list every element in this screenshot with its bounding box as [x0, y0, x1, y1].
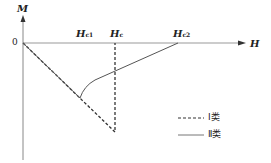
chart-svg — [0, 0, 271, 163]
legend-label-type1: Ⅰ类 — [208, 113, 220, 122]
x-axis-arrow-icon — [238, 41, 246, 46]
tick-hc: Hc — [110, 29, 123, 39]
tick-hc2: Hc2 — [173, 29, 190, 39]
y-axis-label: M — [17, 4, 28, 14]
tick-hc1-sub: c1 — [85, 31, 93, 38]
tick-hc-sub: c — [119, 31, 123, 38]
y-axis-arrow-icon — [21, 15, 26, 22]
tick-hc2-sub: c2 — [182, 31, 190, 38]
tick-hc1: Hc1 — [76, 29, 93, 39]
legend-label-type2: Ⅱ类 — [208, 130, 221, 139]
origin-label: 0 — [12, 38, 18, 47]
x-axis-label: H — [250, 39, 259, 49]
chart-root: M 0 H Hc1 Hc Hc2 Ⅰ类 Ⅱ类 — [0, 0, 271, 163]
series-type2-line — [23, 43, 178, 98]
